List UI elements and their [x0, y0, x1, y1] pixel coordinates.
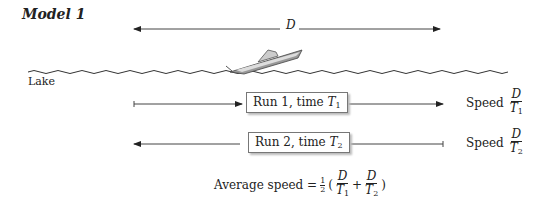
avg-term1: D T1: [336, 170, 349, 200]
boat-icon: [226, 50, 302, 74]
run2-box: Run 2, time T2: [248, 132, 350, 153]
half-fraction: 1 2: [320, 177, 325, 194]
run1-label: Run 1, time: [253, 95, 328, 109]
lake-surface: [28, 71, 508, 74]
speed1-fraction: D T1: [510, 88, 523, 118]
average-speed-formula: Average speed = 1 2 ( D T1 + D T2 ): [214, 170, 386, 200]
speed2-fraction: D T2: [510, 128, 523, 158]
distance-label: D: [283, 18, 299, 32]
speed2: Speed D T2: [466, 128, 523, 158]
run2-label: Run 2, time: [255, 135, 330, 149]
lake-label: Lake: [28, 75, 55, 88]
run1-box: Run 1, time T1: [246, 92, 348, 113]
speed1: Speed D T1: [466, 88, 523, 118]
avg-term2: D T2: [365, 170, 378, 200]
